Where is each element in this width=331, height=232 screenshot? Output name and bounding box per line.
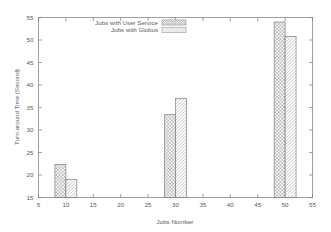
legend-swatch [162, 20, 186, 25]
x-tick-label: 30 [172, 201, 179, 208]
y-tick-label: 45 [27, 59, 34, 66]
bar-chart: 152025303540455055 510152025303540455055… [0, 0, 331, 232]
bar [66, 180, 77, 198]
chart-legend: Jobs with User ServiceJobs with Globus [95, 19, 186, 34]
bars-group [55, 22, 296, 198]
legend-label: Jobs with User Service [95, 19, 158, 26]
x-tick-label: 10 [62, 201, 69, 208]
chart-canvas: 152025303540455055 510152025303540455055… [0, 0, 331, 232]
legend-label: Jobs with Globus [111, 26, 158, 33]
bar [176, 99, 187, 198]
bar [165, 115, 176, 198]
bar [274, 22, 285, 198]
y-tick-label: 15 [27, 194, 34, 201]
x-tick-label: 15 [90, 201, 97, 208]
y-tick-label: 30 [27, 126, 34, 133]
x-tick-label: 20 [117, 201, 124, 208]
x-tick-label: 55 [309, 201, 316, 208]
x-tick-label: 45 [254, 201, 261, 208]
x-tick-label: 5 [37, 201, 41, 208]
y-tick-label: 35 [27, 104, 34, 111]
y-tick-label: 50 [27, 36, 34, 43]
y-axis-title: Turn-around Time (Second) [13, 69, 20, 145]
y-tick-label: 20 [27, 171, 34, 178]
x-tick-label: 40 [227, 201, 234, 208]
y-tick-label: 40 [27, 81, 34, 88]
bar [285, 36, 296, 197]
x-tick-label: 50 [282, 201, 289, 208]
x-tick-label: 35 [199, 201, 206, 208]
y-tick-label: 25 [27, 149, 34, 156]
x-axis-title: Jobs Number [157, 218, 194, 225]
bar [55, 165, 66, 198]
y-tick-label: 55 [27, 14, 34, 21]
x-tick-label: 25 [145, 201, 152, 208]
legend-swatch [162, 28, 186, 33]
